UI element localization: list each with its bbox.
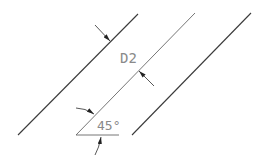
left-parallel-line	[18, 14, 138, 135]
dimension-label: D2	[120, 50, 137, 66]
drawing-canvas: D2 45°	[0, 0, 263, 162]
dimension-arrow-bottom	[139, 71, 154, 86]
angle-arrow-top	[76, 108, 94, 114]
middle-parallel-line	[76, 13, 195, 135]
right-parallel-line	[132, 13, 251, 135]
angle-arrow-bottom	[95, 137, 101, 155]
angle-label: 45°	[97, 118, 120, 133]
drawing-svg: D2 45°	[0, 0, 263, 162]
dimension-arrow-top	[95, 25, 110, 41]
